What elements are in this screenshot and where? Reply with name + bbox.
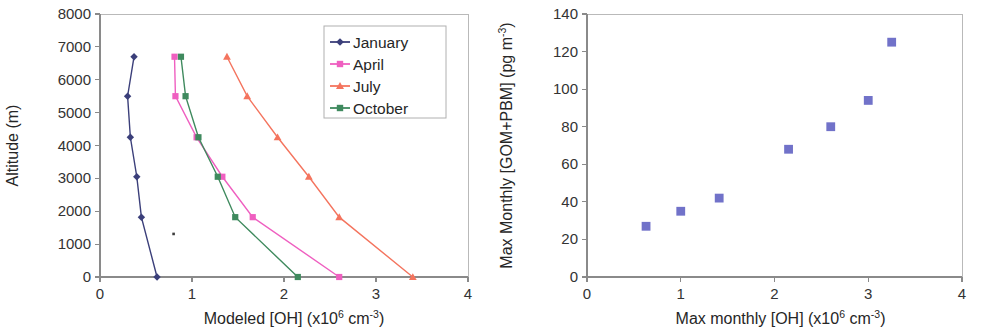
scatter-point (826, 122, 835, 131)
data-point-october (295, 274, 301, 280)
x-tick-label: 3 (864, 285, 872, 302)
y-tick-label: 7000 (58, 38, 91, 55)
y-tick-label: 3000 (58, 169, 91, 186)
data-point-april (171, 54, 177, 60)
data-point-april (336, 274, 342, 280)
scatter-point (784, 145, 793, 154)
data-point-january (124, 92, 131, 99)
y-tick-label: 120 (553, 43, 578, 60)
x-tick-label: 2 (280, 285, 288, 302)
scatter-point (715, 194, 724, 203)
y-axis-title: Altitude (m) (4, 105, 21, 187)
y-tick-label: 2000 (58, 202, 91, 219)
x-tick-label: 1 (677, 285, 685, 302)
data-point-october (232, 214, 238, 220)
y-tick-label: 20 (561, 230, 578, 247)
data-point-january (127, 134, 134, 141)
legend-label-july: July (353, 78, 381, 95)
x-tick-label: 0 (583, 285, 591, 302)
scatter-points-group (642, 38, 896, 231)
y-tick-label: 80 (561, 118, 578, 135)
two-panel-figure: 01000200030004000500060007000800001234Mo… (0, 0, 981, 331)
legend-label-april: April (353, 56, 384, 73)
data-point-october (195, 134, 201, 140)
scatter-point (676, 207, 685, 216)
scatter-chart-svg: 02040608010012014001234Max monthly [OH] … (490, 0, 981, 331)
data-point-april (250, 214, 256, 220)
series-october (178, 54, 301, 280)
series-line-january (128, 57, 157, 277)
scatter-point (642, 222, 651, 231)
y-tick-label: 5000 (58, 104, 91, 121)
profile-chart-svg: 01000200030004000500060007000800001234Mo… (0, 0, 490, 331)
data-point-october (215, 174, 221, 180)
x-tick-label: 0 (96, 285, 104, 302)
max-monthly-scatter-panel: 02040608010012014001234Max monthly [OH] … (490, 0, 981, 331)
y-tick-label: 0 (83, 268, 91, 285)
legend-label-january: January (353, 34, 408, 51)
x-axis-title: Modeled [OH] (x106 cm-3) (204, 308, 385, 327)
y-tick-label: 1000 (58, 235, 91, 252)
y-tick-label: 6000 (58, 71, 91, 88)
y-tick-label: 60 (561, 155, 578, 172)
series-line-april (175, 57, 340, 277)
data-point-october (178, 54, 184, 60)
legend-marker-october (337, 105, 343, 111)
scatter-point (887, 38, 896, 47)
data-point-july (243, 92, 251, 99)
data-point-january (138, 213, 145, 220)
legend-label-october: October (353, 100, 408, 117)
series-april (171, 54, 342, 280)
data-point-january (130, 53, 137, 60)
x-tick-label: 2 (770, 285, 778, 302)
x-tick-label: 1 (188, 285, 196, 302)
legend: JanuaryAprilJulyOctober (324, 26, 446, 118)
legend-marker-april (337, 61, 343, 67)
x-tick-label: 4 (464, 285, 472, 302)
x-axis-title: Max monthly [OH] (x106 cm-3) (676, 308, 886, 327)
data-point-october (182, 93, 188, 99)
scatter-plot-group: 02040608010012014001234Max monthly [OH] … (496, 5, 966, 327)
y-tick-label: 8000 (58, 5, 91, 22)
y-tick-label: 140 (553, 5, 578, 22)
y-tick-label: 100 (553, 80, 578, 97)
data-point-april (172, 93, 178, 99)
data-point-january (153, 273, 160, 280)
y-tick-label: 0 (570, 268, 578, 285)
y-tick-label: 4000 (58, 137, 91, 154)
series-line-october (181, 57, 298, 277)
plot-area-border (587, 14, 962, 277)
profile-plot-group: 01000200030004000500060007000800001234Mo… (4, 5, 472, 327)
data-point-july (223, 53, 231, 60)
y-tick-label: 40 (561, 193, 578, 210)
x-tick-label: 3 (372, 285, 380, 302)
series-january (124, 53, 161, 281)
y-axis-title: Max Monthly [GOM+PBM] (pg m-3) (496, 22, 515, 268)
x-tick-label: 4 (958, 285, 966, 302)
modeled-oh-altitude-profile-panel: 01000200030004000500060007000800001234Mo… (0, 0, 490, 331)
scan-speckle (172, 233, 175, 236)
data-point-january (133, 173, 140, 180)
scatter-point (864, 96, 873, 105)
